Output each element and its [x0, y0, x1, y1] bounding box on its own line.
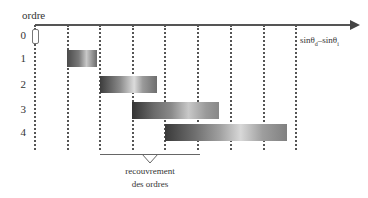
x-label-b-sub: i	[337, 41, 339, 47]
x-axis-label: sinθd–sinθi	[300, 35, 339, 47]
overlap-label-line1: recouvrement	[100, 166, 200, 176]
order-4-bar	[165, 124, 287, 141]
order-2-bar	[100, 76, 157, 93]
x-label-b: sinθ	[322, 35, 337, 45]
x-axis-line	[35, 24, 355, 26]
order-label-2: 2	[12, 78, 26, 90]
y-axis-title: ordre	[22, 9, 45, 21]
order-0-bar	[32, 29, 39, 44]
order-label-1: 1	[12, 52, 26, 64]
arrow-right-icon	[350, 20, 360, 30]
order-label-0: 0	[12, 29, 26, 41]
gridline	[295, 25, 297, 150]
x-label-a: sinθ	[300, 35, 315, 45]
brace-tip-icon	[140, 153, 160, 165]
order-3-bar	[132, 102, 219, 119]
order-1-bar	[67, 50, 97, 67]
overlap-label-line2: des ordres	[100, 179, 200, 189]
order-label-3: 3	[12, 103, 26, 115]
gridline	[67, 25, 69, 150]
order-label-4: 4	[12, 126, 26, 138]
